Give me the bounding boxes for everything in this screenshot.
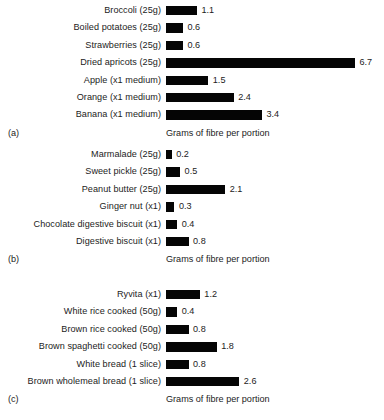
bar-category-label: Chocolate digestive biscuit (x1) (34, 216, 161, 233)
bar-category-label: Brown spaghetti cooked (50g) (39, 338, 161, 355)
bar-row: White bread (1 slice)0.8 (0, 356, 384, 373)
bar (166, 360, 189, 369)
bar-category-label: Ginger nut (x1) (100, 198, 161, 215)
bar-row: Digestive biscuit (x1)0.8 (0, 233, 384, 250)
bar-row: Dried apricots (25g)6.7 (0, 54, 384, 71)
bar-value-label: 0.5 (185, 163, 198, 180)
bar-category-label: White rice cooked (50g) (64, 303, 161, 320)
bar (166, 93, 234, 102)
bar-category-label: Dried apricots (25g) (80, 54, 161, 71)
bar-rows-a: Broccoli (25g)1.1Boiled potatoes (25g)0.… (0, 0, 384, 124)
bar (166, 377, 239, 386)
bar-value-label: 2.6 (244, 373, 257, 390)
bar-row: Brown spaghetti cooked (50g)1.8 (0, 338, 384, 355)
bar-row: Sweet pickle (25g)0.5 (0, 163, 384, 180)
bar-value-label: 0.8 (193, 233, 206, 250)
bar-value-label: 1.1 (202, 2, 215, 19)
bar-plot-area: 0.8 (166, 321, 384, 338)
bar-value-label: 0.3 (179, 198, 192, 215)
bar-row: Brown rice cooked (50g)0.8 (0, 321, 384, 338)
bar-rows-c: Ryvita (x1)1.2White rice cooked (50g)0.4… (0, 280, 384, 390)
fibre-content-bar-chart-figure: Broccoli (25g)1.1Boiled potatoes (25g)0.… (0, 0, 384, 420)
bar-plot-area: 0.5 (166, 163, 384, 180)
bar-plot-area: 1.2 (166, 286, 384, 303)
bar-value-label: 2.4 (238, 89, 251, 106)
panel-footer-b: (b) Grams of fibre per portion (0, 250, 384, 270)
bar-plot-area: 0.4 (166, 303, 384, 320)
bar-value-label: 2.1 (230, 181, 243, 198)
bar-category-label: Strawberries (25g) (85, 37, 161, 54)
bar-category-label: Orange (x1 medium) (77, 89, 161, 106)
bar-value-label: 3.4 (266, 106, 279, 123)
bar-row: Ginger nut (x1)0.3 (0, 198, 384, 215)
bar-plot-area: 0.8 (166, 356, 384, 373)
bar-rows-b: Marmalade (25g)0.2Sweet pickle (25g)0.5P… (0, 140, 384, 250)
bar-row: Brown wholemeal bread (1 slice)2.6 (0, 373, 384, 390)
bar-plot-area: 1.8 (166, 338, 384, 355)
bar-row: Marmalade (25g)0.2 (0, 146, 384, 163)
bar-category-label: Marmalade (25g) (91, 146, 161, 163)
bar-plot-area: 1.5 (166, 72, 384, 89)
x-axis-label-b: Grams of fibre per portion (166, 253, 270, 265)
panel-footer-c: (c) Grams of fibre per portion (0, 390, 384, 410)
bar (166, 220, 177, 229)
bar-plot-area: 2.4 (166, 89, 384, 106)
bar-value-label: 1.8 (221, 338, 234, 355)
bar-category-label: Banana (x1 medium) (76, 106, 161, 123)
bar-row: Ryvita (x1)1.2 (0, 286, 384, 303)
bar-category-label: Digestive biscuit (x1) (76, 233, 161, 250)
x-axis-label-a: Grams of fibre per portion (166, 127, 270, 139)
bar-category-label: Sweet pickle (25g) (85, 163, 161, 180)
bar-value-label: 6.7 (359, 54, 372, 71)
bar (166, 167, 180, 176)
bar-row: Boiled potatoes (25g)0.6 (0, 19, 384, 36)
bar-plot-area: 0.6 (166, 19, 384, 36)
bar-category-label: Boiled potatoes (25g) (74, 19, 162, 36)
bar (166, 342, 217, 351)
bar-category-label: Peanut butter (25g) (82, 181, 161, 198)
bar (166, 41, 183, 50)
bar-row: Banana (x1 medium)3.4 (0, 106, 384, 123)
bar-value-label: 0.6 (187, 37, 200, 54)
bar-value-label: 0.4 (182, 216, 195, 233)
bar-plot-area: 6.7 (166, 54, 384, 71)
bar (166, 325, 189, 334)
panel-tag-a: (a) (8, 127, 19, 139)
bar-row: Orange (x1 medium)2.4 (0, 89, 384, 106)
bar-plot-area: 0.6 (166, 37, 384, 54)
bar-value-label: 0.8 (193, 321, 206, 338)
bar-row: Strawberries (25g)0.6 (0, 37, 384, 54)
bar-plot-area: 0.2 (166, 146, 384, 163)
bar-value-label: 0.6 (187, 19, 200, 36)
bar-plot-area: 0.4 (166, 216, 384, 233)
bar-value-label: 1.2 (204, 286, 217, 303)
bar-value-label: 0.2 (176, 146, 189, 163)
bar-plot-area: 2.1 (166, 181, 384, 198)
bar-category-label: Ryvita (x1) (117, 286, 161, 303)
chart-panel-b: Marmalade (25g)0.2Sweet pickle (25g)0.5P… (0, 140, 384, 270)
bar-plot-area: 0.8 (166, 233, 384, 250)
bar-value-label: 0.8 (193, 356, 206, 373)
bar (166, 237, 189, 246)
bar (166, 58, 355, 67)
bar (166, 290, 200, 299)
bar-plot-area: 1.1 (166, 2, 384, 19)
x-axis-label-c: Grams of fibre per portion (166, 393, 270, 405)
bar (166, 307, 177, 316)
bar-row: Chocolate digestive biscuit (x1)0.4 (0, 216, 384, 233)
bar-category-label: Brown wholemeal bread (1 slice) (28, 373, 161, 390)
panel-tag-b: (b) (8, 253, 19, 265)
bar (166, 6, 197, 15)
bar-row: White rice cooked (50g)0.4 (0, 303, 384, 320)
bar-category-label: Brown rice cooked (50g) (61, 321, 161, 338)
bar-category-label: White bread (1 slice) (77, 356, 161, 373)
chart-panel-a: Broccoli (25g)1.1Boiled potatoes (25g)0.… (0, 0, 384, 144)
bar-row: Peanut butter (25g)2.1 (0, 181, 384, 198)
bar (166, 23, 183, 32)
bar-category-label: Apple (x1 medium) (84, 72, 161, 89)
bar (166, 185, 225, 194)
bar-plot-area: 2.6 (166, 373, 384, 390)
bar (166, 150, 172, 159)
chart-panel-c: Ryvita (x1)1.2White rice cooked (50g)0.4… (0, 280, 384, 410)
bar-value-label: 1.5 (213, 72, 226, 89)
